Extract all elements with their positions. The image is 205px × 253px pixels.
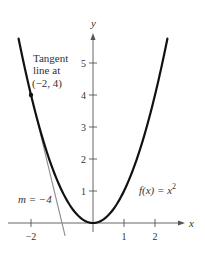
y-axis-arrow-icon [91, 33, 96, 40]
x-tick-label: 1 [122, 231, 127, 242]
tangent-label-line2: line at [33, 64, 60, 76]
y-tick-label: 2 [81, 154, 86, 165]
x-axis-label: x [188, 217, 194, 229]
y-tick-label: 4 [81, 90, 86, 101]
x-tick-label: −2 [26, 231, 37, 242]
tangent-point [29, 93, 33, 97]
x-tick-label: 2 [153, 231, 158, 242]
y-axis-label: y [90, 17, 96, 29]
function-label: f(x) = x2 [139, 182, 176, 197]
y-tick-label: 1 [81, 186, 86, 197]
y-tick-label: 3 [81, 122, 86, 133]
tangent-label-line3: (−2, 4) [32, 77, 62, 90]
y-tick-label: 5 [81, 58, 86, 69]
tangent-label-line1: Tangent [33, 52, 68, 64]
x-axis-arrow-icon [178, 221, 185, 226]
figure: −2 1 2 1 2 3 4 5 x y Tangent line at (−2… [0, 0, 205, 253]
slope-label: m = −4 [18, 193, 52, 205]
